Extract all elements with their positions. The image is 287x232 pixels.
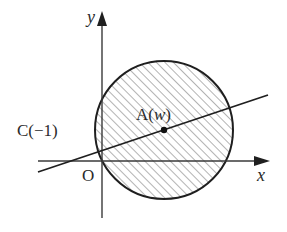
point-A <box>161 127 167 133</box>
origin-label: O <box>82 166 94 185</box>
point-A-close-paren: ) <box>165 105 171 124</box>
y-axis-label: y <box>85 7 95 27</box>
point-C-label: C(−1) <box>17 121 58 140</box>
diagram-canvas: y x O C(−1) A(w) <box>0 0 287 232</box>
y-axis-arrow-icon <box>97 11 107 26</box>
point-A-label: A(w) <box>136 105 171 124</box>
point-A-var: w <box>154 105 166 124</box>
point-A-name: A <box>136 105 149 124</box>
x-axis-label: x <box>256 165 265 185</box>
